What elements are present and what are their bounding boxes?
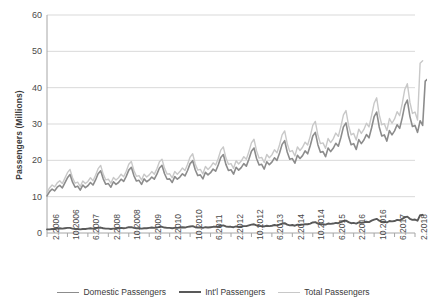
- x-tick-label: 2.2008: [112, 214, 122, 240]
- legend-item[interactable]: Domestic Passengers: [57, 287, 166, 297]
- legend-line-swatch: [278, 292, 300, 293]
- legend-label: Int'l Passengers: [205, 287, 265, 297]
- x-tick-label: 10.2016: [378, 209, 388, 240]
- x-tick-label: 6.2015: [337, 214, 347, 240]
- legend-label: Domestic Passengers: [83, 287, 166, 297]
- x-tick-label: 2.2012: [235, 214, 245, 240]
- x-tick-label: 6.2009: [153, 214, 163, 240]
- x-tick-label: 10.2010: [194, 209, 204, 240]
- x-tick-label: 6.2007: [91, 214, 101, 240]
- x-tick-label: 6.2011: [214, 215, 224, 240]
- x-tick-label: 6.2013: [275, 214, 285, 240]
- legend-label: Total Passengers: [304, 287, 369, 297]
- x-tick-label: 2.2016: [357, 214, 367, 240]
- x-tick-label: 2.2014: [296, 214, 306, 240]
- x-tick-label: 2.2018: [419, 214, 429, 240]
- x-tick-label: 10.2014: [316, 209, 326, 240]
- x-tick-label: 6.2017: [398, 214, 408, 240]
- chart-legend: Domestic PassengersInt'l PassengersTotal…: [0, 287, 427, 297]
- legend-line-swatch: [57, 292, 79, 293]
- x-tick-label: 2.2006: [51, 214, 61, 240]
- x-tick-label: 2.2010: [173, 214, 183, 240]
- x-tick-label: 10.2006: [71, 209, 81, 240]
- x-tick-label: 10.2012: [255, 209, 265, 240]
- x-tick-label: 10.2008: [132, 209, 142, 240]
- legend-item[interactable]: Int'l Passengers: [179, 287, 265, 297]
- legend-line-swatch: [179, 291, 201, 293]
- legend-item[interactable]: Total Passengers: [278, 287, 369, 297]
